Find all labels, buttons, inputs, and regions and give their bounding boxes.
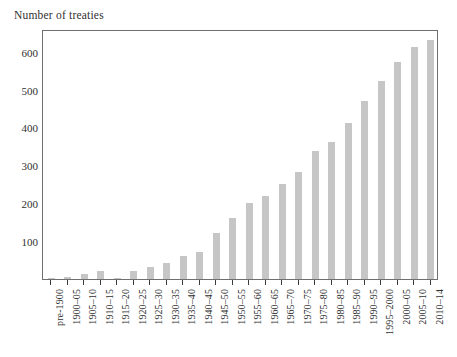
x-tick-mark xyxy=(166,280,167,285)
bar xyxy=(114,278,121,280)
bar xyxy=(411,47,418,279)
x-tick-label: 1905–10 xyxy=(87,289,98,325)
x-tick-label: 1960–65 xyxy=(269,289,280,325)
chart-figure: Number of treaties 100200300400500600 pr… xyxy=(0,0,457,357)
x-tick-mark xyxy=(50,280,51,285)
x-tick-mark xyxy=(67,280,68,285)
bar xyxy=(147,267,154,279)
x-tick-mark xyxy=(100,280,101,285)
x-tick-mark xyxy=(413,280,414,285)
x-tick-mark xyxy=(215,280,216,285)
bar xyxy=(97,271,104,279)
x-tick-label: 2010–14 xyxy=(434,289,445,325)
bar xyxy=(64,277,71,279)
bar xyxy=(378,81,385,279)
x-tick-label: 1940–45 xyxy=(203,289,214,325)
bar xyxy=(427,40,434,279)
bar xyxy=(246,203,253,279)
bar xyxy=(81,274,88,279)
x-tick-mark xyxy=(430,280,431,285)
x-tick-label: 1900–05 xyxy=(71,289,82,325)
y-tick-label: 100 xyxy=(0,236,38,248)
y-tick-label: 400 xyxy=(0,122,38,134)
x-tick-label: 1910–15 xyxy=(104,289,115,325)
bar xyxy=(394,62,401,279)
x-tick-mark xyxy=(364,280,365,285)
x-tick-label: 1985–90 xyxy=(351,289,362,325)
x-tick-label: 1995–2000 xyxy=(384,289,395,335)
x-tick-mark xyxy=(199,280,200,285)
x-tick-mark xyxy=(133,280,134,285)
x-tick-mark xyxy=(232,280,233,285)
x-tick-mark xyxy=(281,280,282,285)
x-tick-label: 1975–80 xyxy=(318,289,329,325)
bar xyxy=(279,184,286,279)
bar xyxy=(312,151,319,279)
bar xyxy=(229,218,236,279)
bar xyxy=(295,172,302,279)
y-tick-label: 200 xyxy=(0,198,38,210)
x-tick-mark xyxy=(116,280,117,285)
plot-frame xyxy=(42,30,438,280)
x-tick-label: 1925–30 xyxy=(153,289,164,325)
bar xyxy=(361,101,368,279)
x-tick-label: 2000–05 xyxy=(401,289,412,325)
x-tick-label: 1950–55 xyxy=(236,289,247,325)
x-tick-label: 1935–40 xyxy=(186,289,197,325)
y-tick-label: 500 xyxy=(0,85,38,97)
bar xyxy=(48,278,55,279)
x-tick-mark xyxy=(298,280,299,285)
x-tick-label: 1915–20 xyxy=(120,289,131,325)
bar xyxy=(213,233,220,279)
x-tick-mark xyxy=(182,280,183,285)
x-tick-label: 2005–10 xyxy=(417,289,428,325)
bar xyxy=(345,123,352,279)
x-tick-label: 1970–75 xyxy=(302,289,313,325)
x-tick-mark xyxy=(331,280,332,285)
bar xyxy=(130,271,137,279)
x-tick-label: 1955–60 xyxy=(252,289,263,325)
y-tick-label: 600 xyxy=(0,47,38,59)
x-tick-mark xyxy=(347,280,348,285)
bar xyxy=(262,196,269,279)
x-tick-mark xyxy=(149,280,150,285)
x-tick-label: 1965–70 xyxy=(285,289,296,325)
x-tick-mark xyxy=(83,280,84,285)
y-axis-title: Number of treaties xyxy=(14,9,104,21)
x-tick-label: 1930–35 xyxy=(170,289,181,325)
x-tick-label: 1990–95 xyxy=(368,289,379,325)
bar xyxy=(163,263,170,279)
x-tick-label: 1945–50 xyxy=(219,289,230,325)
bar xyxy=(180,256,187,279)
plot-area xyxy=(43,31,437,279)
x-tick-mark xyxy=(397,280,398,285)
x-tick-mark xyxy=(265,280,266,285)
bar xyxy=(328,142,335,279)
x-tick-mark xyxy=(314,280,315,285)
x-tick-mark xyxy=(380,280,381,285)
x-tick-label: 1920–25 xyxy=(137,289,148,325)
bar xyxy=(196,252,203,279)
x-tick-label: pre-1900 xyxy=(54,289,65,326)
y-tick-label: 300 xyxy=(0,160,38,172)
x-tick-mark xyxy=(248,280,249,285)
x-tick-label: 1980–85 xyxy=(335,289,346,325)
